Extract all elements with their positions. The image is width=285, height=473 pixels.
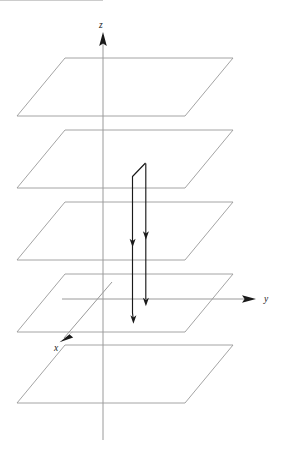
figure-background: [0, 0, 285, 473]
x-axis-label: x: [53, 343, 59, 353]
figure-root: z y x: [0, 0, 285, 473]
y-axis-label: y: [263, 294, 269, 304]
diagram-canvas: z y x: [0, 0, 285, 473]
z-axis-label: z: [98, 20, 103, 30]
